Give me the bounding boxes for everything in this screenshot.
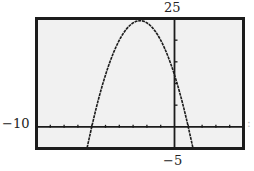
plot-area	[35, 17, 245, 150]
xmax-label: :	[247, 118, 251, 129]
ymin-label: −5	[163, 154, 182, 167]
calculator-graph-screen	[35, 17, 245, 150]
screen-background	[37, 19, 244, 149]
xmin-label: −10	[2, 117, 29, 130]
ymax-label: 25	[164, 1, 181, 14]
